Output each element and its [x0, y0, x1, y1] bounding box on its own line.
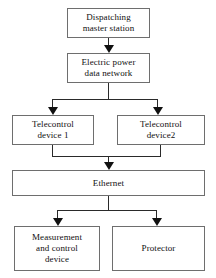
arrowhead-to-telecontrol-device-2 — [153, 107, 163, 115]
arrowhead-to-measurement-and-control-device — [53, 218, 63, 226]
arrowhead-to-electric-power-data-network — [104, 45, 114, 53]
arrowhead-to-ethernet — [104, 162, 114, 170]
node-dispatching-master-station: Dispatching master station — [67, 8, 150, 38]
node-telecontrol-device-2: Telecontrol device2 — [117, 115, 205, 145]
node-label: Measurement and control device — [32, 232, 82, 265]
node-label: Telecontrol device2 — [140, 119, 182, 141]
connector-network-stem — [108, 83, 109, 100]
node-protector: Protector — [112, 226, 205, 271]
node-label: Telecontrol device 1 — [32, 119, 74, 141]
connector-network-branch-bar — [52, 99, 157, 100]
arrowhead-to-telecontrol-device-1 — [48, 107, 58, 115]
connector-ethernet-stem — [108, 196, 109, 211]
node-ethernet: Ethernet — [12, 170, 205, 196]
flowchart-canvas: Dispatching master station Electric powe… — [0, 0, 216, 278]
connector-telecontrol-merge-bar — [52, 156, 161, 157]
node-label: Dispatching master station — [83, 12, 135, 34]
arrowhead-to-protector — [152, 218, 162, 226]
node-electric-power-data-network: Electric power data network — [67, 53, 150, 83]
node-telecontrol-device-1: Telecontrol device 1 — [12, 115, 94, 145]
connector-ethernet-branch-bar — [57, 210, 156, 211]
node-label: Protector — [142, 243, 176, 254]
node-label: Electric power data network — [81, 57, 135, 79]
node-label: Ethernet — [93, 178, 124, 189]
node-measurement-and-control-device: Measurement and control device — [14, 226, 100, 271]
